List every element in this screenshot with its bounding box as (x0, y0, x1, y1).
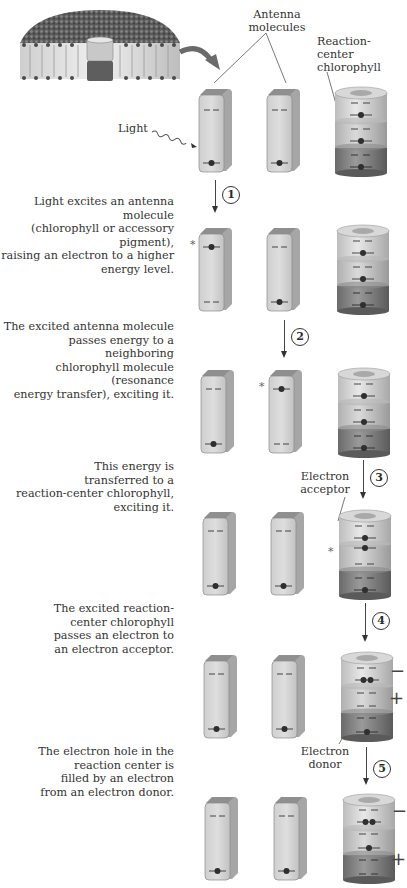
antenna-molecule-2 (266, 87, 300, 173)
step-3-caption: This energy is transferred to a reaction… (16, 460, 174, 514)
negative-charge: − (392, 800, 407, 821)
antenna-molecule-2 (270, 510, 304, 596)
step-4-arrow (365, 603, 366, 636)
reaction-center-chlorophyll (335, 223, 391, 315)
step-1-arrow (215, 180, 216, 207)
step-3-arrow (363, 460, 364, 493)
step-5-caption: The electron hole in the reaction center… (38, 745, 174, 799)
reaction-center-chlorophyll (341, 792, 397, 884)
negative-charge: − (390, 660, 405, 681)
antenna-molecule-2 (266, 226, 300, 312)
step-2-badge: 2 (291, 328, 309, 346)
antenna-molecule-2 (271, 653, 305, 739)
reaction-center-chlorophyll (337, 508, 393, 600)
antenna-molecule-1 (204, 795, 238, 881)
positive-charge: + (391, 848, 406, 869)
step-4-arrowhead-icon (362, 635, 368, 642)
excited-marker: * (259, 380, 265, 393)
reaction-center-chlorophyll (333, 85, 389, 177)
step-3-arrowhead-icon (360, 492, 366, 499)
electron-donor-label: Electron donor (300, 745, 350, 771)
step-5-arrowhead-icon (363, 778, 369, 785)
step-1-caption: Light excites an antenna molecule (chlor… (0, 195, 174, 277)
excited-marker: * (190, 238, 196, 251)
step-2-caption: The excited antenna molecule passes ener… (0, 320, 174, 402)
positive-charge: + (389, 687, 404, 708)
step-4-caption: The excited reaction- center chlorophyll… (54, 602, 174, 656)
excited-marker: * (328, 545, 334, 558)
thylakoid-membrane-illustration (15, 5, 185, 85)
reaction-center-chlorophyll (339, 650, 395, 742)
step-5-arrow (366, 747, 367, 779)
step-2-arrowhead-icon (281, 351, 287, 358)
electron-acceptor-label: Electron acceptor (300, 470, 350, 496)
antenna-molecule-1 (202, 510, 236, 596)
step-3-badge: 3 (370, 469, 388, 487)
step-1-badge: 1 (222, 186, 240, 204)
light-label: Light (118, 122, 148, 135)
light-wave-icon (150, 126, 198, 150)
reaction-center-chlorophyll-label: Reaction- center chlorophyll (317, 35, 381, 74)
antenna-molecule-1 (198, 226, 232, 312)
antenna-molecule-2 (268, 368, 302, 454)
antenna-molecule-1 (200, 368, 234, 454)
reaction-center-chlorophyll (336, 366, 392, 458)
step-5-badge: 5 (373, 760, 391, 778)
step-4-badge: 4 (372, 612, 390, 630)
antenna-molecule-2 (273, 795, 307, 881)
antenna-molecule-1 (198, 87, 232, 173)
step-2-arrow (284, 320, 285, 352)
antenna-molecule-1 (203, 653, 237, 739)
step-1-arrowhead-icon (212, 206, 218, 213)
